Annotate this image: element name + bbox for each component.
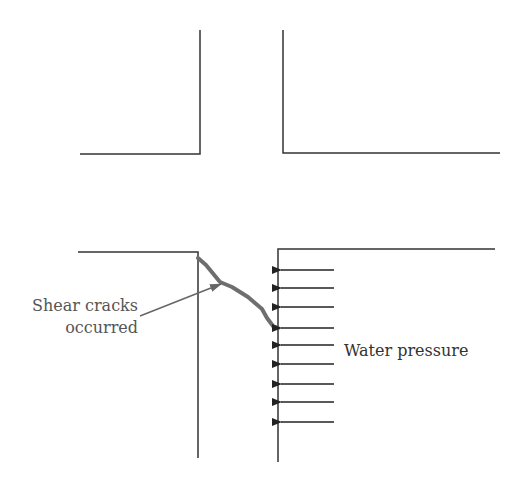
top-right-wall	[283, 30, 500, 153]
shear-crack	[198, 258, 278, 328]
water-pressure-label: Water pressure	[344, 340, 468, 362]
shear-cracks-label: Shear cracks occurred	[0, 295, 138, 339]
shear-cracks-label-line1: Shear cracks	[0, 295, 138, 317]
top-left-wall	[80, 30, 200, 154]
water-pressure-arrows	[281, 270, 334, 422]
crack-pointer-arrow	[140, 284, 221, 316]
bottom-left-wall	[78, 252, 198, 458]
tunnel-junction-diagram	[0, 0, 523, 484]
shear-cracks-label-line2: occurred	[0, 317, 138, 339]
